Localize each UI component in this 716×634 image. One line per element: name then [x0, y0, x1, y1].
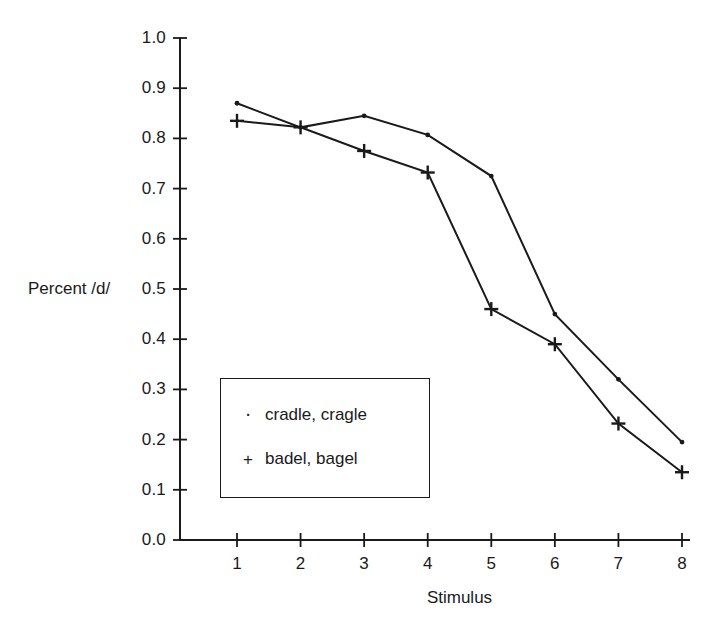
y-tick-label: 0.9: [80, 78, 166, 98]
dot-marker-icon: [616, 377, 621, 382]
legend-item-label: badel, bagel: [259, 449, 358, 469]
x-tick-label: 6: [550, 554, 560, 574]
x-tick-label: 3: [359, 554, 369, 574]
x-tick-label: 8: [677, 554, 687, 574]
chart-figure: Percent /d/ Stimulus 0.00.10.20.30.40.50…: [0, 0, 716, 634]
y-tick-label: 0.3: [80, 379, 166, 399]
y-tick-label: 0.1: [80, 480, 166, 500]
x-tick-label: 2: [296, 554, 306, 574]
y-tick-label: 0.6: [80, 229, 166, 249]
dot-marker-icon: [362, 113, 367, 118]
legend-item-label: cradle, cragle: [259, 405, 367, 425]
dot-marker-icon: [489, 174, 494, 179]
x-axis-title: Stimulus: [427, 588, 492, 608]
y-tick-label: 1.0: [80, 28, 166, 48]
legend-item: ·cradle, cragle: [237, 405, 367, 425]
y-tick-label: 0.4: [80, 329, 166, 349]
x-tick-label: 4: [423, 554, 433, 574]
plus-marker-icon: +: [237, 451, 259, 468]
dot-marker-icon: [552, 312, 557, 317]
dot-marker-icon: [680, 440, 685, 445]
legend-item: +badel, bagel: [237, 449, 358, 469]
y-tick-label: 0.8: [80, 128, 166, 148]
y-tick-label: 0.2: [80, 430, 166, 450]
x-tick-label: 1: [232, 554, 242, 574]
dot-marker-icon: ·: [237, 403, 259, 423]
y-tick-label: 0.5: [80, 279, 166, 299]
dot-marker-icon: [235, 101, 240, 106]
chart-legend: ·cradle, cragle+badel, bagel: [220, 378, 430, 498]
dot-marker-icon: [425, 132, 430, 137]
x-tick-label: 5: [486, 554, 496, 574]
y-tick-label: 0.0: [80, 530, 166, 550]
x-tick-label: 7: [614, 554, 624, 574]
y-tick-label: 0.7: [80, 179, 166, 199]
